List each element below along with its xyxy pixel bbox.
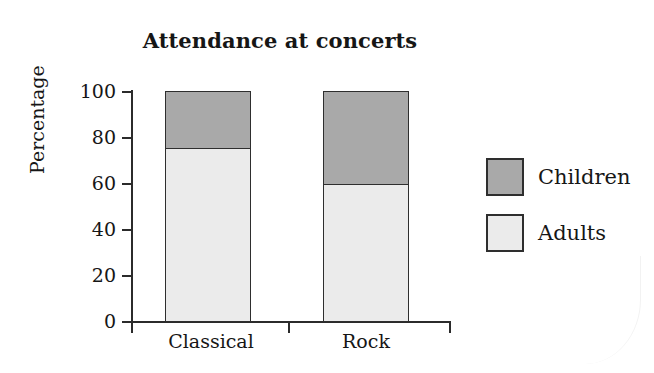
bar-classical[interactable] [165,91,251,323]
x-tick-end [449,322,451,333]
x-tick-divider [288,322,290,333]
scan-artifact [548,256,641,364]
y-tick-40 [122,229,132,231]
y-axis-line [131,90,133,324]
y-tick-label-80: 80 [62,128,116,147]
y-tick-label-20: 20 [62,266,116,285]
x-tick-label-rock: Rock [306,330,426,352]
bar-rock[interactable] [323,91,409,323]
y-tick-80 [122,137,132,139]
bar-rock-segment-adults[interactable] [323,184,409,322]
children-swatch [486,158,524,196]
bar-classical-segment-children[interactable] [165,91,251,149]
x-tick-start [131,322,133,333]
chart-figure: Attendance at concerts Percentage 100 80… [0,0,654,373]
bar-rock-segment-children[interactable] [323,91,409,185]
legend-label-adults: Adults [538,221,606,245]
x-tick-label-classical: Classical [146,330,276,352]
y-tick-label-60: 60 [62,174,116,193]
y-axis-label: Percentage [26,14,48,174]
y-tick-label-40: 40 [62,220,116,239]
y-tick-100 [122,91,132,93]
chart-title: Attendance at concerts [0,28,560,53]
adults-swatch [486,214,524,252]
y-tick-label-0: 0 [62,312,116,331]
y-tick-60 [122,183,132,185]
y-tick-label-100: 100 [62,82,116,101]
y-tick-20 [122,275,132,277]
bar-classical-segment-adults[interactable] [165,148,251,322]
legend-label-children: Children [538,165,630,189]
